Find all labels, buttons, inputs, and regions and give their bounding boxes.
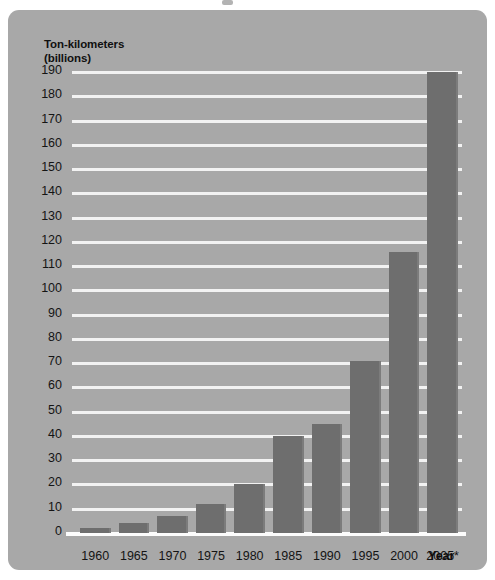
y-axis-tick-label: 50 xyxy=(22,403,62,417)
bar xyxy=(196,504,227,533)
y-axis-tick-label: 190 xyxy=(22,63,62,77)
x-axis-tick-label: 2000 xyxy=(383,549,426,563)
y-axis-tick-label: 110 xyxy=(22,257,62,271)
x-axis-tick-label: 1995 xyxy=(344,549,387,563)
plot-area: 1901801701601501401301201101009080706050… xyxy=(8,10,487,570)
x-axis-tick-label: 1980 xyxy=(228,549,271,563)
y-axis-tick-label: 140 xyxy=(22,184,62,198)
bar xyxy=(427,72,458,533)
chart-panel: Ton-kilometers (billions) 19018017016015… xyxy=(8,10,487,570)
gridline xyxy=(72,95,462,98)
bar xyxy=(273,436,304,533)
x-axis-tick-label: 1970 xyxy=(151,549,194,563)
y-axis-tick-label: 100 xyxy=(22,281,62,295)
x-axis-tick-label: 1985 xyxy=(267,549,310,563)
gridline xyxy=(72,192,462,195)
bar xyxy=(157,516,188,533)
bar xyxy=(350,361,381,533)
gridline xyxy=(72,144,462,147)
y-axis-tick-label: 90 xyxy=(22,306,62,320)
y-axis-tick-label: 20 xyxy=(22,475,62,489)
gridline xyxy=(72,168,462,171)
bar xyxy=(234,484,265,533)
x-axis-tick-label: 1975 xyxy=(190,549,233,563)
x-axis-title: Year xyxy=(428,549,454,563)
chart-footnote: *Forecast xyxy=(36,567,79,570)
bar xyxy=(389,252,420,533)
gridline xyxy=(72,120,462,123)
y-axis-tick-label: 40 xyxy=(22,427,62,441)
y-axis-tick-label: 120 xyxy=(22,233,62,247)
bar xyxy=(119,523,150,533)
y-axis-tick-label: 10 xyxy=(22,500,62,514)
y-axis-tick-label: 180 xyxy=(22,87,62,101)
y-axis-tick-label: 160 xyxy=(22,136,62,150)
y-axis-tick-label: 30 xyxy=(22,451,62,465)
y-axis-tick-label: 60 xyxy=(22,378,62,392)
x-axis-tick-label: 1965 xyxy=(113,549,156,563)
y-axis-tick-label: 70 xyxy=(22,354,62,368)
y-axis-tick-label: 80 xyxy=(22,330,62,344)
bar xyxy=(312,424,343,533)
y-axis-tick-label: 170 xyxy=(22,112,62,126)
gridline xyxy=(72,71,462,74)
gridline xyxy=(72,241,462,244)
x-axis-tick-label: 1960 xyxy=(74,549,117,563)
bar xyxy=(80,528,111,533)
y-axis-tick-label: 130 xyxy=(22,209,62,223)
clipped-glyph-artifact xyxy=(222,0,233,5)
x-axis-tick-label: 1990 xyxy=(306,549,349,563)
y-axis-tick-label: 150 xyxy=(22,160,62,174)
gridline xyxy=(72,217,462,220)
y-axis-tick-label: 0 xyxy=(22,524,62,538)
